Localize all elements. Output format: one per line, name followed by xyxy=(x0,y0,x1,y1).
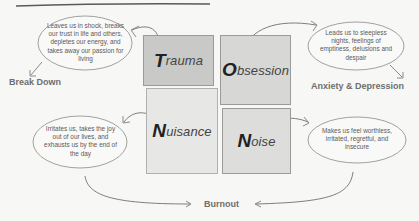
outcome-burnout: Burnout xyxy=(204,199,239,209)
quadrant-obsession: Obsession xyxy=(220,35,291,105)
arrow-noise-to-burnout xyxy=(256,172,353,204)
arrow-to-breakdown xyxy=(31,62,42,75)
nuisance-rest: uisance xyxy=(166,124,212,139)
quadrant-noise: Noise xyxy=(222,108,291,174)
header-rule xyxy=(16,4,210,6)
trauma-initial: T xyxy=(154,50,166,72)
quadrant-trauma: Trauma xyxy=(143,35,214,86)
tonn-diagram: Trauma Obsession Nuisance Noise Leaves u… xyxy=(0,0,419,221)
arrow-nuisance-to-burnout xyxy=(85,176,190,204)
arrow-to-anxiety xyxy=(390,65,402,77)
bubble-noise: Makes us feel worthless, irritated, regr… xyxy=(320,127,394,152)
quadrant-nuisance: Nuisance xyxy=(146,88,218,174)
obsession-rest: bsession xyxy=(237,63,289,78)
bubble-obsession: Leads us to sleepless nights, feelings o… xyxy=(318,29,394,62)
trauma-rest: rauma xyxy=(166,53,203,68)
noise-initial: N xyxy=(237,130,251,152)
bubble-trauma: Leaves us in shock, breaks our trust in … xyxy=(46,22,125,63)
obsession-initial: O xyxy=(222,59,237,81)
bubble-nuisance: Irritates us, takes the joy out of our l… xyxy=(42,125,119,158)
noise-rest: oise xyxy=(251,134,275,149)
outcome-break-down: Break Down xyxy=(9,77,61,87)
outcome-anxiety-depression: Anxiety & Depression xyxy=(311,81,404,91)
nuisance-initial: N xyxy=(152,120,166,142)
arrowhead-obsession xyxy=(311,21,317,31)
